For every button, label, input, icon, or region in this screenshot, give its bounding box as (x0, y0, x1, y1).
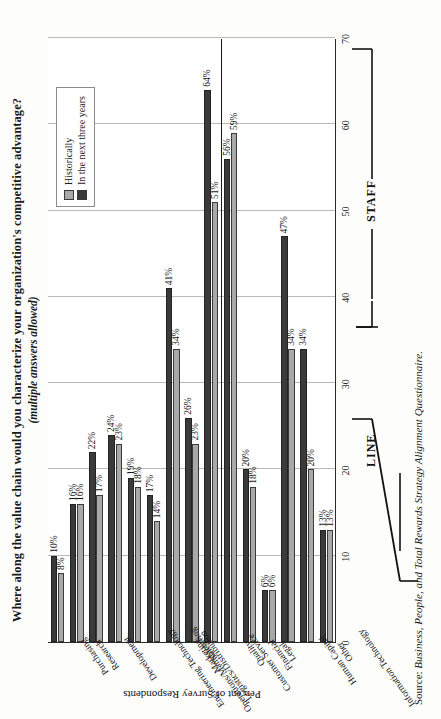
bar-value-label: 13% (327, 509, 333, 526)
bar-value-label: 17% (147, 475, 153, 492)
bar (300, 349, 306, 642)
bar (116, 444, 122, 642)
bar-value-label: 64% (204, 69, 210, 86)
bar (108, 435, 114, 642)
bar (243, 469, 249, 642)
bar (147, 495, 153, 642)
legend-label: In the next three years (76, 96, 87, 185)
group-label-staff: STAFF (364, 180, 379, 222)
bar (128, 478, 134, 642)
bar-value-label: 59% (231, 113, 237, 130)
bar-value-label: 24% (108, 415, 114, 432)
legend-label: Historically (63, 138, 74, 185)
y-axis-tick-label: 50 (340, 207, 351, 217)
y-axis-tick-label: 60 (340, 120, 351, 130)
y-axis-tick-label: 40 (340, 293, 351, 303)
bar (70, 504, 76, 642)
gridline (48, 37, 335, 38)
bar (89, 452, 95, 642)
bar-value-label: 26% (185, 397, 191, 414)
bar-value-label: 18% (250, 466, 256, 483)
y-axis-tick-label: 70 (340, 34, 351, 44)
line-staff-divider (221, 39, 223, 643)
bar (308, 469, 314, 642)
bar-value-label: 47% (281, 216, 287, 233)
bar-value-label: 34% (288, 328, 294, 345)
bar-value-label: 18% (135, 466, 141, 483)
source-text: Business, People, and Total Rewards Stra… (412, 351, 424, 669)
bar-value-label: 34% (300, 328, 306, 345)
scanned-page: Where along the value chain would you ch… (0, 0, 441, 719)
bar (281, 236, 287, 642)
bar-value-label: 13% (320, 509, 326, 526)
legend-swatch-icon (77, 190, 87, 200)
title-block: Where along the value chain would you ch… (10, 15, 41, 705)
bar-value-label: 41% (166, 268, 172, 285)
legend-item-historically: Historically (63, 96, 74, 200)
gridline (48, 210, 335, 211)
source-prefix: Source: (412, 671, 424, 705)
legend-item-next-three-years: In the next three years (76, 96, 87, 200)
bar-value-label: 14% (154, 501, 160, 518)
group-label-line: LINE (364, 434, 379, 467)
source-note: Source: Business, People, and Total Rewa… (412, 351, 424, 705)
y-axis-tick-label: 10 (340, 552, 351, 562)
bar (58, 573, 64, 642)
bar-value-label: 22% (89, 432, 95, 449)
bar (250, 487, 256, 642)
bar-value-label: 6% (269, 575, 275, 588)
bar (320, 530, 326, 642)
bar (288, 349, 294, 642)
bar-value-label: 20% (308, 449, 314, 466)
bar-value-label: 51% (212, 182, 218, 199)
bar (51, 556, 57, 642)
bar (224, 159, 230, 642)
bar-value-label: 20% (243, 449, 249, 466)
bar-value-label: 23% (116, 423, 122, 440)
bar-value-label: 16% (70, 484, 76, 501)
bar (262, 590, 268, 642)
y-axis-tick-label: 20 (340, 465, 351, 475)
bar (204, 90, 210, 642)
bar (154, 521, 160, 642)
category-label: Information Technology (356, 627, 417, 708)
bar-value-label: 23% (192, 423, 198, 440)
bar (269, 590, 275, 642)
bar (192, 444, 198, 642)
bar-value-label: 16% (77, 484, 83, 501)
bar (212, 202, 218, 642)
chart-sheet: Where along the value chain would you ch… (0, 0, 441, 719)
bar (77, 504, 83, 642)
bar (135, 487, 141, 642)
legend: Historically In the next three years (56, 87, 95, 207)
bar-value-label: 34% (173, 328, 179, 345)
bar (96, 495, 102, 642)
y-axis-tick-label: 30 (340, 379, 351, 389)
bar (231, 133, 237, 642)
bar-value-label: 56% (224, 138, 230, 155)
page-title: Where along the value chain would you ch… (10, 15, 26, 705)
bar (173, 349, 179, 642)
bar (327, 530, 333, 642)
bar-value-label: 8% (58, 557, 64, 570)
bar (185, 418, 191, 642)
bar-value-label: 10% (51, 535, 57, 552)
gridline (48, 296, 335, 297)
bar (166, 288, 172, 642)
bar-value-label: 17% (96, 475, 102, 492)
bar-value-label: 6% (262, 575, 268, 588)
bar-value-label: 19% (128, 458, 134, 475)
legend-swatch-icon (64, 190, 74, 200)
page-subtitle: (multiple answers allowed) (26, 15, 41, 705)
